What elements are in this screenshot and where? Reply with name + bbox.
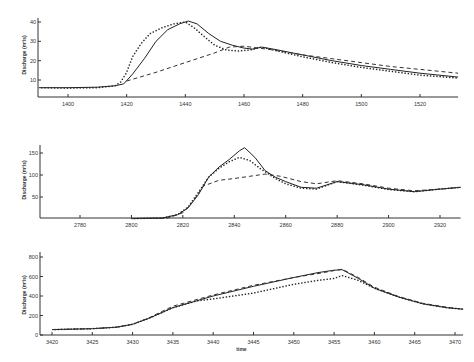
series-solid bbox=[39, 21, 458, 88]
panel-chart-2: 2780280028202840286028802900292050100150… bbox=[21, 145, 461, 228]
y-tick-label: 50 bbox=[32, 194, 38, 200]
series-solid bbox=[131, 148, 460, 219]
series-dotted bbox=[134, 157, 459, 219]
panel-chart-1: 140014201440146014801500152010203040Disc… bbox=[21, 18, 458, 107]
x-tick-label: 2800 bbox=[125, 222, 137, 228]
y-tick-label: 10 bbox=[30, 77, 36, 83]
x-tick-label: 3440 bbox=[207, 339, 219, 345]
y-tick-label: 0 bbox=[35, 332, 38, 338]
series-dashed bbox=[127, 46, 458, 81]
x-tick-label: 1500 bbox=[355, 101, 367, 107]
y-tick-label: 150 bbox=[29, 150, 38, 156]
x-tick-label: 3450 bbox=[288, 339, 300, 345]
x-tick-label: 3460 bbox=[368, 339, 380, 345]
series-solid bbox=[52, 270, 463, 330]
x-tick-label: 1480 bbox=[297, 101, 309, 107]
x-tick-label: 2900 bbox=[382, 222, 394, 228]
x-tick-label: 3465 bbox=[409, 339, 421, 345]
series-dotted bbox=[41, 22, 457, 89]
y-tick-label: 800 bbox=[29, 254, 38, 260]
panel-chart-3: 3420342534303435344034453450345534603465… bbox=[21, 252, 463, 352]
x-tick-label: 1440 bbox=[179, 101, 191, 107]
y-axis-label: Discharge (m³/s) bbox=[21, 160, 27, 200]
x-tick-label: 1520 bbox=[414, 101, 426, 107]
x-tick-label: 3435 bbox=[167, 339, 179, 345]
y-axis-label: Discharge (m³/s) bbox=[21, 275, 27, 315]
hydrograph-figure: 140014201440146014801500152010203040Disc… bbox=[0, 0, 474, 362]
x-tick-label: 3470 bbox=[449, 339, 461, 345]
x-tick-label: 3420 bbox=[46, 339, 58, 345]
y-tick-label: 400 bbox=[29, 293, 38, 299]
x-tick-label: 2840 bbox=[228, 222, 240, 228]
x-tick-label: 1400 bbox=[62, 101, 74, 107]
y-tick-label: 40 bbox=[30, 19, 36, 25]
x-tick-label: 3425 bbox=[86, 339, 98, 345]
y-tick-label: 100 bbox=[29, 172, 38, 178]
x-tick-label: 1420 bbox=[121, 101, 133, 107]
x-tick-label: 3455 bbox=[328, 339, 340, 345]
series-dashed bbox=[52, 269, 463, 329]
x-tick-label: 2860 bbox=[280, 222, 292, 228]
x-axis-label: time bbox=[236, 346, 247, 352]
y-axis-label: Discharge (m³/s) bbox=[21, 35, 27, 75]
x-tick-label: 2880 bbox=[331, 222, 343, 228]
x-tick-label: 2920 bbox=[434, 222, 446, 228]
x-tick-label: 3430 bbox=[126, 339, 138, 345]
y-tick-label: 30 bbox=[30, 38, 36, 44]
x-tick-label: 2820 bbox=[177, 222, 189, 228]
x-tick-label: 2780 bbox=[74, 222, 86, 228]
x-tick-label: 3445 bbox=[247, 339, 259, 345]
y-tick-label: 200 bbox=[29, 313, 38, 319]
series-dotted bbox=[54, 275, 462, 330]
y-tick-label: 600 bbox=[29, 274, 38, 280]
y-tick-label: 20 bbox=[30, 58, 36, 64]
x-tick-label: 1460 bbox=[238, 101, 250, 107]
